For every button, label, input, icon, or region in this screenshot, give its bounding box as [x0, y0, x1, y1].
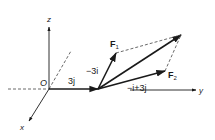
- f1-component-label: −3i: [86, 66, 98, 76]
- origin-label: O: [40, 78, 47, 88]
- x-axis-label: x: [19, 123, 25, 132]
- parallelogram-side-top: [116, 35, 181, 53]
- displacement-label: 3j: [68, 76, 75, 86]
- vector-diagram: z x y O 3j −3i −i+3j F1 F2: [0, 0, 215, 140]
- f1-label: F1: [110, 39, 120, 50]
- y-axis-label: y: [198, 86, 204, 95]
- z-axis-label: z: [46, 15, 51, 24]
- f2-label: F2: [168, 70, 178, 81]
- f2-component-label: −i+3j: [127, 83, 147, 93]
- x-axis: [29, 89, 49, 121]
